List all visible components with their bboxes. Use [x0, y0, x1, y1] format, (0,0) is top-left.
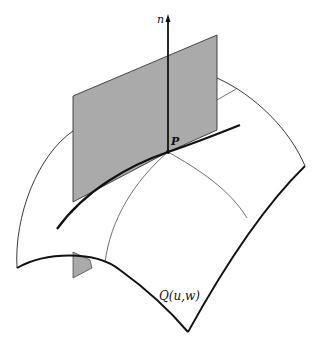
- point-label: P: [170, 135, 180, 148]
- arrow-head-icon: [166, 14, 171, 22]
- normal-label: n: [157, 13, 164, 26]
- surface-normal-diagram: n P Q(u,w): [0, 0, 322, 352]
- point-p: [166, 150, 170, 154]
- surface-label: Q(u,w): [159, 289, 200, 303]
